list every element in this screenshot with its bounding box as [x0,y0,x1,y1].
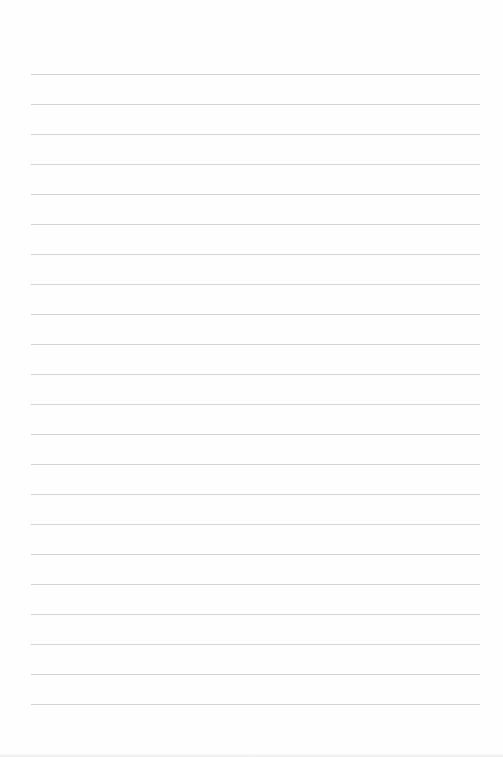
ruled-line [31,704,480,705]
ruled-line [31,224,480,225]
ruled-line [31,374,480,375]
ruled-line [31,644,480,645]
ruled-line [31,314,480,315]
ruled-line [31,344,480,345]
ruled-line [31,614,480,615]
ruled-line [31,404,480,405]
ruled-line [31,134,480,135]
ruled-line [31,254,480,255]
ruled-line [31,164,480,165]
ruled-line [31,434,480,435]
ruled-line [31,674,480,675]
ruled-line [31,584,480,585]
ruled-line [31,104,480,105]
ruled-line [31,74,480,75]
ruled-line [31,524,480,525]
ruled-line [31,194,480,195]
page-bottom-shadow [0,753,503,757]
ruled-line [31,494,480,495]
ruled-line [31,284,480,285]
ruled-line [31,554,480,555]
ruled-line [31,464,480,465]
lined-paper-page [0,0,503,757]
